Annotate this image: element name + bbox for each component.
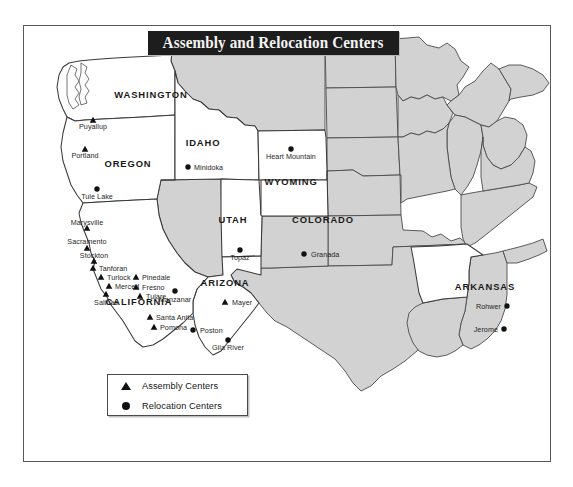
state-label-utah: UTAH bbox=[219, 214, 248, 225]
city-label-santa-anita: Santa Anita bbox=[156, 313, 193, 322]
center-poston: Poston bbox=[190, 326, 222, 335]
circle-marker-icon bbox=[94, 186, 99, 191]
circle-marker-icon bbox=[301, 251, 306, 256]
city-label-mayer: Mayer bbox=[232, 298, 253, 307]
city-label-portland: Portland bbox=[71, 151, 98, 160]
circle-marker-icon bbox=[190, 327, 195, 332]
city-label-topaz: Topaz bbox=[230, 253, 250, 262]
state-label-arkansas: ARKANSAS bbox=[455, 281, 515, 292]
city-label-poston: Poston bbox=[200, 326, 223, 335]
state-minnesota bbox=[395, 37, 469, 101]
city-label-granada: Granada bbox=[311, 250, 339, 259]
circle-marker-icon bbox=[172, 288, 177, 293]
state-south-dakota bbox=[326, 87, 398, 138]
city-label-stockton: Stockton bbox=[80, 251, 108, 260]
state-tennessee bbox=[503, 239, 547, 263]
map-title-text: Assembly and Relocation Centers bbox=[163, 33, 384, 53]
state-label-idaho: IDAHO bbox=[186, 137, 221, 148]
city-label-tanforan: Tanforan bbox=[99, 264, 127, 273]
circle-marker-icon bbox=[185, 164, 190, 169]
state-label-wyoming: WYOMING bbox=[264, 176, 317, 187]
legend-label-assembly-centers: Assembly Centers bbox=[142, 381, 218, 391]
state-label-washington: WASHINGTON bbox=[114, 89, 187, 100]
triangle-marker-icon bbox=[119, 379, 133, 393]
city-label-tule-lake: Tule Lake bbox=[81, 192, 113, 201]
state-kansas bbox=[327, 170, 401, 216]
city-label-sacramento: Sacramento bbox=[67, 237, 106, 246]
city-label-puyallup: Puyallup bbox=[79, 122, 107, 131]
circle-marker-icon bbox=[288, 146, 293, 151]
state-label-colorado: COLORADO bbox=[292, 214, 354, 225]
circle-marker-icon bbox=[504, 303, 509, 308]
circle-marker-icon bbox=[501, 326, 506, 331]
map-legend: Assembly Centers Relocation Centers bbox=[107, 374, 248, 416]
city-label-jerome: Jerome bbox=[474, 325, 498, 334]
us-west-map: WASHINGTONOREGONIDAHOWYOMINGUTAHCOLORADO… bbox=[23, 25, 551, 462]
circle-marker-icon bbox=[237, 247, 242, 252]
city-label-rohwer: Rohwer bbox=[476, 302, 502, 311]
state-missouri bbox=[398, 123, 455, 203]
map-title-banner: Assembly and Relocation Centers bbox=[148, 31, 399, 55]
legend-item-assembly-centers: Assembly Centers bbox=[108, 376, 247, 396]
city-label-turlock: Turlock bbox=[107, 273, 131, 282]
city-label-salinas: Salinas bbox=[94, 298, 118, 307]
city-label-pomona: Pomona bbox=[160, 323, 187, 332]
center-jerome: Jerome bbox=[474, 325, 507, 334]
city-label-fresno: Fresno bbox=[142, 283, 165, 292]
state-kentucky bbox=[461, 183, 537, 247]
legend-label-relocation-centers: Relocation Centers bbox=[142, 401, 222, 411]
state-label-oregon: OREGON bbox=[104, 158, 151, 169]
circle-marker-icon bbox=[119, 399, 133, 413]
legend-item-relocation-centers: Relocation Centers bbox=[108, 396, 247, 416]
city-label-pinedale: Pinedale bbox=[142, 273, 170, 282]
circle-marker-icon bbox=[225, 337, 230, 342]
city-label-gila-river: Gila River bbox=[212, 343, 245, 352]
map-page: WASHINGTONOREGONIDAHOWYOMINGUTAHCOLORADO… bbox=[0, 0, 573, 487]
city-label-manzanar: Manzanar bbox=[159, 295, 192, 304]
city-label-heart-mountain: Heart Mountain bbox=[266, 152, 316, 161]
city-label-minidoka: Minidoka bbox=[194, 163, 223, 172]
map-canvas: WASHINGTONOREGONIDAHOWYOMINGUTAHCOLORADO… bbox=[23, 25, 551, 462]
state-label-arizona: ARIZONA bbox=[200, 277, 249, 288]
city-label-marysville: Marysville bbox=[71, 218, 103, 227]
